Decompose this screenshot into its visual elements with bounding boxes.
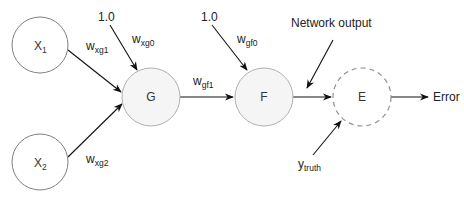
node-f-label: F: [260, 90, 267, 104]
node-e-label: E: [358, 90, 366, 104]
node-x2-sub: 2: [42, 162, 47, 172]
node-x1-label: X: [34, 39, 42, 53]
weight-label-xg1: wxg1: [85, 39, 109, 55]
edge-ytruth-to-e: [313, 121, 341, 155]
weight-label-xg0: wxg0: [131, 32, 155, 48]
edge-network-output-to-e: [307, 40, 333, 88]
node-x1-sub: 1: [42, 45, 47, 55]
network-diagram: X1 X2 G F E wxg1 wxg2 wxg0 wgf1 wgf0 1.0…: [0, 0, 464, 199]
node-x2-label: X: [34, 156, 42, 170]
ytruth-label: ytruth: [298, 157, 321, 173]
node-x1: X1: [12, 17, 68, 73]
weight-label-gf0: wgf0: [236, 32, 258, 48]
bias-label-g: 1.0: [98, 10, 115, 24]
node-x2: X2: [12, 134, 68, 190]
node-g: G: [122, 68, 180, 126]
node-e: E: [333, 68, 391, 126]
error-label: Error: [433, 90, 460, 104]
node-g-label: G: [146, 90, 155, 104]
edge-x1-to-g: [68, 50, 121, 92]
weight-label-xg2: wxg2: [85, 152, 109, 168]
edge-x2-to-g: [68, 104, 122, 157]
weight-label-gf1: wgf1: [192, 74, 214, 90]
bias-label-f: 1.0: [201, 10, 218, 24]
node-f: F: [235, 68, 293, 126]
network-output-label: Network output: [291, 16, 372, 30]
